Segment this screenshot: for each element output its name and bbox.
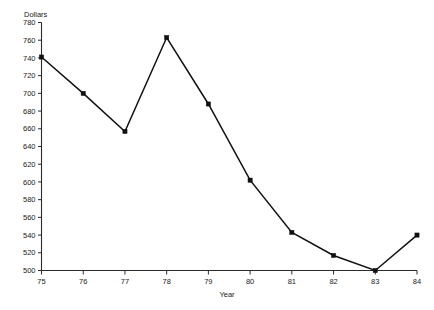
x-axis-title: Year <box>219 290 235 299</box>
x-tick-label: 81 <box>288 277 296 286</box>
x-tick-label: 77 <box>121 277 129 286</box>
y-tick-label: 700 <box>23 89 36 98</box>
y-tick-label: 520 <box>23 248 36 257</box>
y-tick-label: 620 <box>23 160 36 169</box>
y-tick-label: 660 <box>23 124 36 133</box>
x-tick-label: 78 <box>162 277 170 286</box>
x-tick-label: 82 <box>329 277 337 286</box>
data-point-marker <box>123 129 127 133</box>
data-point-marker <box>165 35 169 39</box>
y-tick-label: 600 <box>23 178 36 187</box>
x-tick-label: 76 <box>79 277 87 286</box>
data-point-marker <box>81 91 85 95</box>
y-axis-title: Dollars <box>24 10 48 19</box>
y-tick-label: 680 <box>23 107 36 116</box>
y-tick-label: 580 <box>23 195 36 204</box>
data-point-marker <box>290 230 294 234</box>
line-chart: 5005205405605806006206406606807007207407… <box>0 0 434 310</box>
data-point-marker <box>373 268 377 272</box>
data-point-marker <box>206 102 210 106</box>
y-tick-label: 560 <box>23 213 36 222</box>
data-point-marker <box>39 55 43 59</box>
x-tick-label: 84 <box>413 277 421 286</box>
x-tick-label: 75 <box>37 277 45 286</box>
y-tick-label: 500 <box>23 266 36 275</box>
y-tick-label: 740 <box>23 54 36 63</box>
x-tick-label: 83 <box>371 277 379 286</box>
y-tick-label: 720 <box>23 71 36 80</box>
x-tick-label: 80 <box>246 277 254 286</box>
chart-background <box>0 0 434 310</box>
chart-canvas: 5005205405605806006206406606807007207407… <box>0 0 434 310</box>
data-point-marker <box>248 178 252 182</box>
y-tick-label: 540 <box>23 231 36 240</box>
data-point-marker <box>331 253 335 257</box>
y-tick-label: 640 <box>23 142 36 151</box>
data-point-marker <box>415 233 419 237</box>
y-tick-label: 780 <box>23 18 36 27</box>
x-tick-label: 79 <box>204 277 212 286</box>
y-tick-label: 760 <box>23 36 36 45</box>
